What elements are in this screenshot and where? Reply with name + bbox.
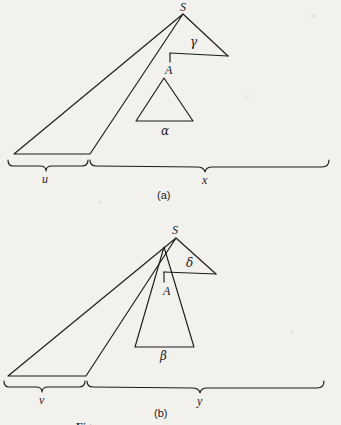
panel-b-distance-label-v: v: [39, 394, 44, 406]
panel-a-horizontal-ray-gamma: [170, 53, 228, 56]
panel-a-apex-label-s: S: [180, 1, 186, 13]
panel-a-large-triangle: [14, 14, 183, 154]
panel-b-brace-v: [4, 381, 85, 392]
panel-b-angle-label-beta: β: [160, 350, 167, 362]
panel-a-angle-label-gamma: γ: [190, 36, 197, 48]
panel-b-apex-label-s: S: [172, 224, 178, 236]
panel-b-large-triangle: [8, 238, 176, 376]
panel-b-sight-line-delta: [176, 238, 216, 274]
panel-a-distance-label-u: u: [42, 173, 48, 185]
figure-page: S γ A α u x (a) S δ A β v y (b) Fig.: [0, 0, 341, 425]
panel-a-brace-u: [8, 160, 88, 171]
panel-b-linework: [4, 238, 324, 393]
panel-a-linework: [8, 14, 329, 172]
panel-b-caption: (b): [154, 408, 167, 419]
panel-a-inner-apex-label-a: A: [165, 64, 172, 76]
panel-b-brace-y: [87, 381, 324, 393]
figure-caption-cropped: Fig.: [76, 421, 94, 425]
panel-a-caption: (a): [157, 190, 170, 201]
panel-a-brace-x: [90, 160, 329, 172]
panel-b-angle-label-delta: δ: [186, 257, 193, 269]
panel-a-angle-label-alpha: α: [161, 125, 169, 137]
panel-a-distance-label-x: x: [202, 174, 207, 186]
panel-b-distance-label-y: y: [197, 395, 202, 407]
panel-a-inner-triangle: [136, 78, 193, 121]
panel-b-inner-apex-label-a: A: [163, 285, 170, 297]
